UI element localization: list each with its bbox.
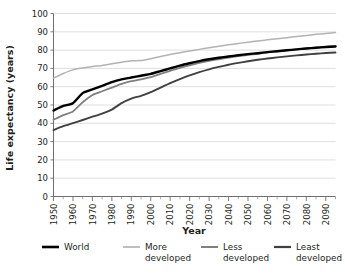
y-tick-label: 80 [37, 45, 48, 55]
x-tick-label: 2050 [243, 204, 253, 226]
legend-label: Least [296, 242, 320, 252]
line-chart-canvas: 0102030405060708090100 19501960197019801… [0, 0, 345, 275]
y-tick-label: 60 [37, 82, 48, 92]
x-tick-label: 2070 [282, 204, 292, 226]
x-axis-title: Year [181, 225, 206, 236]
legend-label-line2: developed [145, 253, 191, 263]
y-axis-title: Life expectancy (years) [4, 45, 15, 171]
x-tick-label: 2090 [321, 204, 331, 226]
x-tick-label: 2010 [165, 204, 175, 226]
legend-label: Less [223, 242, 243, 252]
x-tick-label: 1990 [126, 204, 136, 226]
x-tick-label: 1980 [107, 204, 117, 226]
x-tick-label: 2030 [204, 204, 214, 226]
chart-figure: 0102030405060708090100 19501960197019801… [0, 0, 345, 275]
y-tick-label: 10 [37, 173, 48, 183]
x-tick-label: 1950 [49, 204, 59, 226]
x-tick-label: 2060 [263, 204, 273, 226]
x-tick-label: 1970 [88, 204, 98, 226]
y-tick-label: 30 [37, 137, 48, 147]
x-tick-label: 2080 [302, 204, 312, 226]
x-tick-label: 2020 [185, 204, 195, 226]
plot-background [0, 0, 345, 275]
y-tick-label: 70 [37, 63, 48, 73]
y-tick-label: 40 [37, 118, 48, 128]
legend-label-line2: developed [223, 253, 269, 263]
legend-label: World [64, 242, 89, 252]
y-tick-label: 90 [37, 27, 48, 37]
y-tick-label: 50 [37, 100, 48, 110]
x-axis-tick-labels: 1950196019701980199020002010202020302040… [49, 204, 331, 226]
x-tick-label: 1960 [68, 204, 78, 226]
legend-label: More [145, 242, 167, 252]
y-axis-title-text: Life expectancy (years) [4, 45, 15, 171]
y-tick-label: 20 [37, 155, 48, 165]
x-tick-label: 2040 [224, 204, 234, 226]
x-axis-title-text: Year [181, 225, 206, 236]
y-tick-label: 0 [43, 192, 48, 202]
y-tick-label: 100 [32, 9, 48, 19]
legend-label-line2: developed [296, 253, 342, 263]
x-tick-label: 2000 [146, 204, 156, 226]
